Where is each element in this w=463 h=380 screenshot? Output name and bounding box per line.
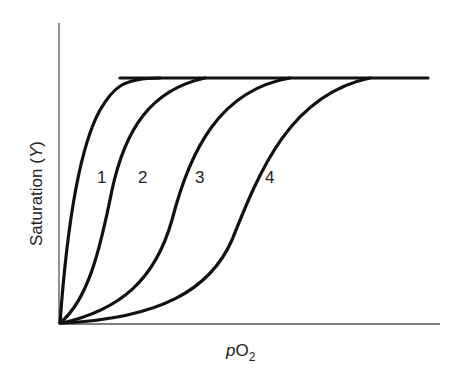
y-axis-label-suffix: ) (27, 141, 46, 147)
curve-2 (60, 78, 205, 323)
y-axis-label-prefix: Saturation ( (27, 158, 46, 246)
curve-3-label: 3 (195, 168, 204, 187)
y-axis-label: Saturation (Y) (27, 141, 46, 246)
x-axis-label-subscript: 2 (249, 350, 256, 364)
x-axis-label-italic: p (225, 341, 235, 360)
oxygen-saturation-chart: 1 2 3 4 pO2 Saturation (Y) (0, 0, 463, 380)
x-axis-label-main: O (235, 341, 248, 360)
x-axis-label: pO2 (225, 341, 256, 364)
curve-2-label: 2 (138, 168, 147, 187)
curve-4-label: 4 (265, 168, 274, 187)
curve-1-label: 1 (97, 168, 106, 187)
